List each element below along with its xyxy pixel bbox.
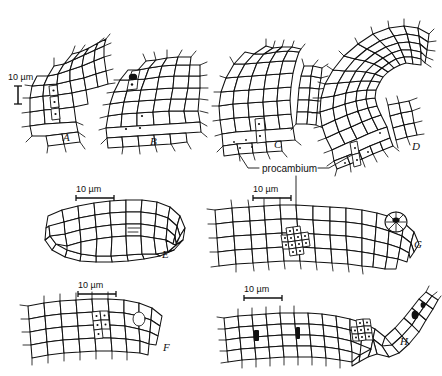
botanical-figure: A [0, 0, 442, 376]
panel-letter-g: G [414, 238, 422, 250]
panel-e-drawing: E [45, 200, 185, 262]
scale-bar-g-label: 10 µm [253, 184, 278, 194]
panel-letter-d: D [411, 140, 420, 152]
procambium-label: procambium [262, 163, 317, 174]
panel-letter-a: A [62, 131, 70, 143]
scale-bar-e-label: 10 µm [76, 184, 101, 194]
scale-bar-f-label: 10 µm [78, 280, 103, 290]
scale-bar-h-label: 10 µm [244, 284, 269, 294]
panel-letter-c: C [274, 138, 282, 150]
panel-letter-b: B [150, 135, 157, 147]
panel-letter-f: F [162, 341, 170, 353]
panel-g-rosette [385, 212, 407, 232]
panel-letter-h: H [399, 335, 409, 347]
scale-bar-a-label: 10 µm [8, 72, 33, 82]
panel-letter-e: E [161, 248, 169, 260]
